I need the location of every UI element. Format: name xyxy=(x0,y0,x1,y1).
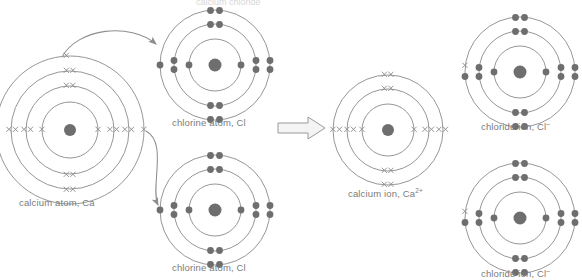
label-chloride-ion-top: chloride ion, Cl– xyxy=(481,121,550,132)
label-chlorine-atom-top: chlorine atom, Cl xyxy=(172,117,246,128)
label-chloride-ion-bottom-text: chloride ion, Cl xyxy=(481,268,546,279)
ionic-bonding-diagram xyxy=(0,0,582,280)
reaction-arrow xyxy=(278,117,325,139)
label-chlorine-atom-bottom: chlorine atom, Cl xyxy=(172,262,246,273)
diagram-canvas: calcium chloride xyxy=(0,0,582,280)
label-chloride-ion-top-text: chloride ion, Cl xyxy=(481,121,546,132)
label-chlorine-atom-bottom-text: chlorine atom, Cl xyxy=(172,262,246,273)
label-calcium-atom-text: calcium atom, Ca xyxy=(19,197,95,208)
electron-transfer-arrow-up xyxy=(62,31,156,57)
label-chloride-ion-bottom: chloride ion, Cl– xyxy=(481,268,550,279)
chlorine-atom-bottom-nucleus xyxy=(209,204,222,217)
label-chloride-ion-bottom-charge: – xyxy=(546,267,550,274)
chlorine-atom-top-nucleus xyxy=(209,59,222,72)
species-calcium-atom xyxy=(0,53,146,204)
species-chloride-ion-top xyxy=(462,14,579,130)
label-calcium-ion: calcium ion, Ca2+ xyxy=(348,188,423,199)
calcium-ion-nucleus xyxy=(382,124,394,136)
chloride-ion-top-nucleus xyxy=(514,66,527,79)
label-chloride-ion-top-charge: – xyxy=(546,120,550,127)
species-chlorine-atom-bottom xyxy=(157,152,274,268)
calcium-atom-nucleus xyxy=(64,124,76,136)
label-calcium-ion-text: calcium ion, Ca xyxy=(348,188,415,199)
label-chlorine-atom-top-text: chlorine atom, Cl xyxy=(172,117,246,128)
species-chloride-ion-bottom xyxy=(462,160,579,276)
label-calcium-atom: calcium atom, Ca xyxy=(19,197,95,208)
species-chlorine-atom-top xyxy=(157,7,274,123)
electron-transfer-arrow-down xyxy=(146,131,158,205)
species-calcium-ion xyxy=(331,72,448,187)
chloride-ion-bottom-nucleus xyxy=(514,212,527,225)
transfer-arrows xyxy=(62,31,158,205)
label-calcium-ion-charge: 2+ xyxy=(415,187,423,194)
